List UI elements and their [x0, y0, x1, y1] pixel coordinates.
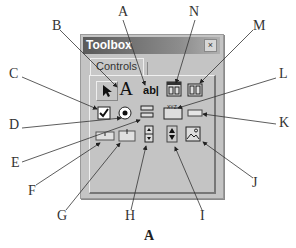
callout-I: I	[200, 209, 205, 223]
tab-controls-label: Controls	[96, 60, 137, 72]
callout-M: M	[253, 19, 265, 33]
toolbox-window: Toolbox × Controls A ab| XYZ	[80, 34, 224, 199]
callout-D: D	[9, 118, 19, 132]
tab-divider	[147, 62, 148, 76]
combobox-icon[interactable]	[118, 127, 136, 143]
callout-C: C	[9, 67, 18, 81]
toolbox-diagram: Toolbox × Controls A ab| XYZ	[0, 0, 296, 248]
pointer-icon[interactable]	[96, 81, 118, 101]
tabstrip-icon[interactable]	[187, 105, 203, 121]
frame-icon[interactable]	[166, 81, 182, 97]
window-title: Toolbox	[86, 38, 132, 52]
listbox-icon[interactable]	[95, 128, 115, 144]
callout-K: K	[279, 116, 289, 130]
callout-B: B	[52, 19, 61, 33]
option-button-icon[interactable]	[117, 105, 133, 121]
toggle-button-icon[interactable]	[139, 104, 155, 120]
callout-A: A	[118, 5, 128, 19]
callout-N: N	[189, 5, 199, 19]
callout-L: L	[279, 67, 288, 81]
callout-H: H	[125, 209, 135, 223]
textbox-icon[interactable]: ab|	[140, 82, 162, 98]
tab-controls[interactable]: Controls	[90, 58, 144, 75]
spin-button-icon[interactable]	[164, 126, 180, 142]
callout-F: F	[28, 184, 36, 198]
title-bar[interactable]: Toolbox ×	[83, 37, 220, 54]
close-button[interactable]: ×	[204, 39, 217, 52]
command-button-icon[interactable]	[187, 82, 203, 98]
label-icon[interactable]: A	[118, 81, 134, 97]
figure-caption: A	[144, 228, 154, 244]
callout-J: J	[252, 176, 257, 190]
image-icon[interactable]	[185, 126, 201, 142]
svg-text:XYZ: XYZ	[167, 104, 177, 110]
multipage-icon[interactable]: XYZ	[163, 104, 183, 120]
scrollbar-icon[interactable]	[141, 126, 157, 142]
checkbox-icon[interactable]	[96, 105, 112, 121]
callout-G: G	[57, 209, 67, 223]
callout-E: E	[11, 156, 20, 170]
